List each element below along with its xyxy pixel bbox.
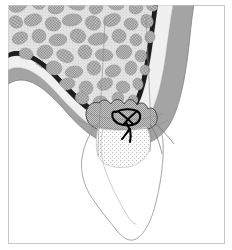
illustration-figure — [0, 0, 232, 250]
illustration-canvas — [0, 0, 232, 250]
